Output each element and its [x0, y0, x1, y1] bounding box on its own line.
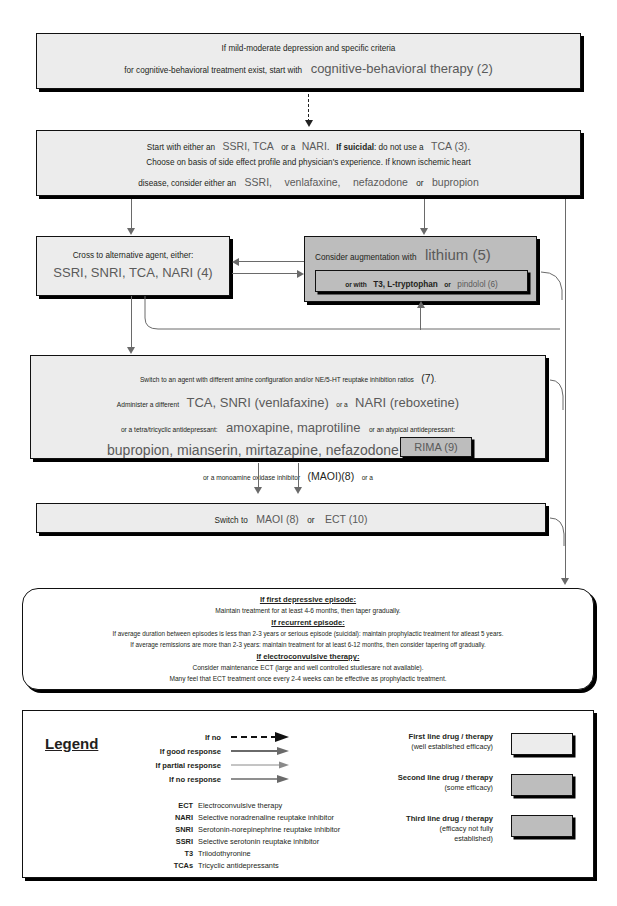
- cross-line-1: Cross to alternative agent, either:: [73, 251, 194, 262]
- legend-abbr-key-5: TCAs: [131, 861, 193, 870]
- connector-switch-to-rail: [0, 380, 617, 420]
- cbt-box[interactable]: If mild-moderate depression and specific…: [36, 33, 581, 89]
- maintenance-heading-2: If recurrent episode:: [271, 618, 344, 628]
- lithium-line-1: Consider augmentation with lithium (5): [315, 244, 491, 265]
- connector-lithium-to-cross: [238, 261, 304, 262]
- arrowhead-switch-to-maoi-a: [254, 487, 262, 494]
- legend-response-label-2: If partial response: [101, 761, 221, 770]
- connector-start-to-cross: [131, 199, 132, 230]
- legend-box: Legend If no If good response If partial…: [22, 710, 594, 878]
- legend-swatch-first-line: [511, 733, 573, 755]
- legend-arrow-good: [231, 746, 293, 756]
- arrowhead-lithium-to-cross: [232, 258, 239, 266]
- start-line-2: Choose on basis of side effect profile a…: [146, 158, 471, 169]
- cbt-line-2: for cognitive-behavioral treatment exist…: [124, 57, 493, 78]
- legend-response-label-3: If no response: [101, 775, 221, 784]
- legend-abbr-key-2: SNRI: [131, 825, 193, 834]
- maintenance-heading-3: If electroconvulsive therapy:: [257, 652, 360, 662]
- maintenance-heading-1: If first depressive episode:: [260, 595, 356, 605]
- connector-cbt-to-start: [308, 94, 309, 122]
- rima-label: RIMA (9): [414, 440, 457, 455]
- arrowhead-start-to-cross: [127, 228, 135, 235]
- connector-start-to-lithium: [424, 199, 425, 230]
- connector-maoi-to-rail: [0, 518, 617, 558]
- rima-box[interactable]: RIMA (9): [400, 437, 472, 457]
- legend-swatch-second-line: [511, 774, 573, 796]
- legend-abbr-key-4: T3: [131, 849, 193, 858]
- legend-abbr-value-4: Triiodothyronine: [198, 849, 251, 858]
- arrowhead-rail-to-maintenance: [561, 578, 569, 585]
- legend-abbr-key-1: NARI: [131, 813, 193, 822]
- maintenance-text-5: Many feel that ECT treatment once every …: [169, 675, 446, 684]
- cbt-line-1: If mild-moderate depression and specific…: [222, 44, 396, 55]
- connector-lithium-to-rail: [0, 272, 617, 312]
- legend-arrow-none: [231, 774, 293, 784]
- legend-arrow-partial: [231, 760, 293, 770]
- legend-tier-2: Third line drug / therapy (efficacy not …: [353, 814, 493, 843]
- arrowhead-start-to-lithium: [420, 228, 428, 235]
- legend-abbr-value-1: Selective noradrenaline reuptake inhibit…: [198, 813, 334, 822]
- connector-switch-to-maoi-b: [298, 463, 299, 489]
- start-box[interactable]: Start with either an SSRI, TCA or a NARI…: [36, 130, 581, 196]
- legend-abbr-value-3: Selective serotonin reuptake inhibitor: [198, 837, 319, 846]
- legend-abbr-value-2: Serotonin-norepinephrine reuptake inhibi…: [198, 825, 340, 834]
- legend-response-label-0: If no: [101, 733, 221, 742]
- legend-tier-1: Second line drug / therapy (some efficac…: [353, 773, 493, 793]
- legend-abbr-value-5: Tricyclic antidepressants: [198, 861, 279, 870]
- legend-abbr-key-3: SSRI: [131, 837, 193, 846]
- connector-switch-to-maoi-a: [258, 463, 259, 489]
- arrowhead-cbt-to-start: [305, 120, 313, 127]
- legend-response-label-1: If good response: [101, 747, 221, 756]
- legend-abbr-value-0: Electroconvulsive therapy: [198, 801, 282, 810]
- legend-swatch-third-line: [511, 815, 573, 837]
- start-line-3: disease, consider either an SSRI, venlaf…: [138, 170, 479, 191]
- start-line-1: Start with either an SSRI, TCA or a NARI…: [147, 134, 470, 155]
- legend-title: Legend: [45, 735, 98, 752]
- legend-arrow-dashed: [231, 732, 293, 742]
- maintenance-text-1: Maintain treatment for at least 4-6 mont…: [215, 607, 400, 616]
- legend-abbr-key-0: ECT: [131, 801, 193, 810]
- legend-tier-0: First line drug / therapy (well establis…: [353, 732, 493, 752]
- maintenance-text-3: If average remissions are more than 2-3 …: [130, 641, 485, 649]
- maintenance-text-4: Consider maintenance ECT (large and well…: [192, 664, 423, 673]
- arrowhead-switch-to-maoi-b: [294, 487, 302, 494]
- switch-line-5: or a monoamine oxidase inhibitor (MAOI)(…: [203, 464, 373, 485]
- arrowhead-cross-to-switch: [127, 347, 135, 354]
- maintenance-box[interactable]: If first depressive episode: Maintain tr…: [22, 588, 594, 690]
- flowchart-canvas: If mild-moderate depression and specific…: [0, 0, 617, 906]
- maintenance-text-2: If average duration between episodes is …: [113, 630, 504, 638]
